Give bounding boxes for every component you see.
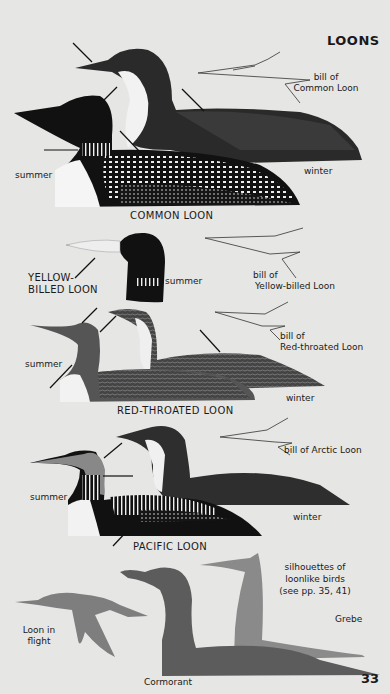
grebe-label: Grebe (335, 614, 362, 625)
red-throated-bill-label: bill of Red-throated Loon (280, 331, 363, 353)
red-throated-bill-diagram (215, 302, 288, 340)
pacific-winter (116, 426, 350, 505)
silhouettes-heading-line1: silhouettes of (268, 561, 362, 573)
common-loon-caption: COMMON LOON (130, 210, 213, 221)
yellow-billed-caption: YELLOW- BILLED LOON (28, 272, 98, 296)
silhouettes-heading-line2: loonlike birds (268, 573, 362, 585)
common-bill-label: bill of Common Loon (290, 72, 362, 94)
loon-in-flight-label-line1: Loon in (18, 625, 60, 636)
red-throated-winter-label: winter (286, 393, 314, 404)
red-throated-bill-label-line2: Red-throated Loon (280, 342, 363, 353)
cormorant-label: Cormorant (144, 677, 192, 688)
page-title: LOONS (327, 33, 380, 48)
arctic-bill-diagram (220, 418, 292, 455)
red-throated-caption: RED-THROATED LOON (117, 405, 234, 416)
yellow-billed-caption-line1: YELLOW- (28, 272, 98, 284)
pacific-summer-label: summer (30, 492, 67, 503)
page-number: 33 (361, 671, 379, 686)
common-bill-label-line1: bill of (290, 72, 362, 83)
pacific-loon-caption: PACIFIC LOON (133, 541, 207, 552)
yellow-billed-bill-label-line1: bill of (245, 270, 345, 281)
arctic-bill-label: bill of Arctic Loon (284, 445, 362, 456)
common-loon-winter (75, 49, 362, 163)
silhouettes-heading: silhouettes of loonlike birds (see pp. 3… (268, 561, 362, 597)
silhouettes-heading-line3: (see pp. 35, 41) (268, 585, 362, 597)
pacific-winter-label: winter (293, 512, 321, 523)
red-throated-bill-label-line1: bill of (280, 331, 363, 342)
loon-in-flight-label-line2: flight (18, 636, 60, 647)
common-summer-label: summer (15, 170, 52, 181)
yellow-billed-bill-label-line2: Yellow-billed Loon (245, 281, 345, 292)
common-bill-label-line2: Common Loon (290, 83, 362, 94)
yellow-billed-summer-label: summer (165, 276, 202, 287)
common-winter-label: winter (304, 166, 332, 177)
yellow-billed-bill-label: bill of Yellow-billed Loon (245, 270, 345, 292)
red-throated-summer-label: summer (25, 359, 62, 370)
yellow-billed-caption-line2: BILLED LOON (28, 284, 98, 296)
loon-in-flight-label: Loon in flight (18, 625, 60, 647)
